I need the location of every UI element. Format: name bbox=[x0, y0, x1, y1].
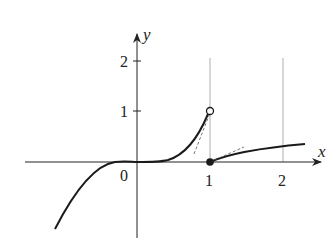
y-tick-label-2: 2 bbox=[120, 53, 128, 70]
y-axis-label: y bbox=[141, 25, 151, 44]
x-tick-label-1: 1 bbox=[205, 172, 213, 189]
tangent-right-dashed bbox=[210, 147, 244, 162]
closed-point-marker bbox=[206, 158, 214, 166]
function-graph-figure: y x 0 1 2 1 2 bbox=[0, 0, 336, 247]
tangent-left-dashed bbox=[194, 113, 210, 154]
curve-middle-piece bbox=[137, 114, 208, 162]
open-point-marker bbox=[207, 108, 214, 115]
graph-canvas: y x 0 1 2 1 2 bbox=[0, 0, 336, 247]
origin-label: 0 bbox=[120, 167, 128, 184]
y-tick-label-1: 1 bbox=[120, 103, 128, 120]
x-tick-label-2: 2 bbox=[278, 172, 286, 189]
curve-right-piece bbox=[210, 144, 305, 162]
x-axis-label: x bbox=[317, 142, 326, 161]
